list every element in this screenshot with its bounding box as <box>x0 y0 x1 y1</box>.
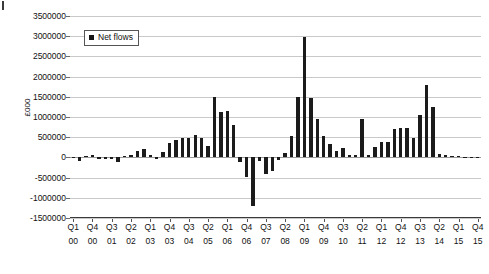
bar <box>303 37 306 158</box>
bar <box>476 157 479 158</box>
bar <box>341 148 344 158</box>
bar <box>354 155 357 157</box>
page-corner-artifact <box>2 1 4 10</box>
bar <box>110 157 113 159</box>
bar <box>136 151 139 158</box>
bar <box>264 157 267 173</box>
bar <box>283 153 286 157</box>
bar <box>187 138 190 157</box>
x-axis-tick <box>362 219 363 222</box>
x-axis-tick-labels: Q100Q400Q301Q202Q103Q403Q304Q205Q106Q406… <box>70 222 481 266</box>
bar <box>405 128 408 157</box>
bar <box>245 157 248 176</box>
bar <box>271 157 274 171</box>
bar <box>72 157 75 158</box>
bar <box>194 135 197 158</box>
bar <box>393 129 396 157</box>
bar <box>335 151 338 157</box>
bar <box>450 156 453 158</box>
bar <box>290 136 293 158</box>
bar <box>200 138 203 157</box>
bar <box>129 155 132 157</box>
y-axis-tick-label: 2000000 <box>33 72 66 82</box>
y-axis-tick-label: 1000000 <box>33 112 66 122</box>
bar <box>232 125 235 157</box>
bar <box>457 156 460 157</box>
bar-series-net-flows <box>70 16 481 218</box>
x-axis-tick <box>304 219 305 222</box>
legend-label: Net flows <box>98 32 133 43</box>
x-label-quarter: Q4 <box>467 222 489 233</box>
x-axis-tick <box>266 219 267 222</box>
x-axis-tick <box>92 219 93 222</box>
bar <box>360 119 363 157</box>
x-axis-tick <box>420 219 421 222</box>
bar <box>91 155 94 157</box>
y-axis-tick <box>66 218 70 219</box>
y-axis-tick-label: -500000 <box>35 173 66 183</box>
bar <box>78 157 81 161</box>
y-axis-title: £000 <box>23 83 32 133</box>
bar <box>277 157 280 159</box>
bar <box>219 112 222 157</box>
bar <box>226 111 229 157</box>
y-axis-tick-label: -1000000 <box>30 193 66 203</box>
x-axis-tick <box>131 219 132 222</box>
bar <box>316 119 319 158</box>
net-flows-bar-chart: £000 35000003000000250000020000001500000… <box>0 0 489 274</box>
legend-marker-icon <box>89 35 94 40</box>
x-axis-line <box>70 217 481 218</box>
bar <box>258 157 261 161</box>
x-axis-tick <box>439 219 440 222</box>
y-axis-tick-label: 3000000 <box>33 31 66 41</box>
bar <box>142 149 145 157</box>
bar <box>412 138 415 157</box>
y-axis-tick-label: 500000 <box>38 132 66 142</box>
x-axis-tick <box>73 219 74 222</box>
x-axis-tick <box>189 219 190 222</box>
x-axis-tick <box>227 219 228 222</box>
x-axis-tick <box>150 219 151 222</box>
bar <box>181 138 184 157</box>
bar <box>463 157 466 158</box>
bar <box>97 157 100 158</box>
bar <box>373 147 376 158</box>
x-axis-tick <box>247 219 248 222</box>
x-axis-tick <box>112 219 113 222</box>
x-axis-tick <box>459 219 460 222</box>
bar <box>322 136 325 157</box>
bar <box>84 156 87 158</box>
bar <box>161 152 164 157</box>
bar <box>431 107 434 158</box>
x-axis-tick <box>170 219 171 222</box>
y-axis-tick-label: 0 <box>61 152 66 162</box>
bar <box>438 154 441 157</box>
x-axis-tick <box>343 219 344 222</box>
x-axis-tick <box>285 219 286 222</box>
bar <box>399 128 402 157</box>
bar <box>238 157 241 162</box>
bar <box>213 97 216 157</box>
bar <box>149 155 152 157</box>
bar <box>444 155 447 157</box>
bar <box>425 85 428 157</box>
bar <box>206 146 209 157</box>
bar <box>296 97 299 158</box>
bar <box>470 157 473 158</box>
y-axis-tick-label: -1500000 <box>30 213 66 223</box>
bar <box>348 155 351 158</box>
y-axis-tick-label: 3500000 <box>33 11 66 21</box>
plot-area <box>70 16 481 218</box>
bar <box>328 144 331 157</box>
x-axis-tick <box>478 219 479 222</box>
bar <box>155 157 158 159</box>
x-label-year: 15 <box>467 236 489 247</box>
bar <box>123 156 126 157</box>
bar <box>367 155 370 157</box>
y-axis-tick-label: 1500000 <box>33 92 66 102</box>
bar <box>418 115 421 157</box>
x-axis-tick <box>324 219 325 222</box>
x-axis-tick <box>401 219 402 222</box>
bar <box>168 143 171 158</box>
x-axis-tick <box>208 219 209 222</box>
